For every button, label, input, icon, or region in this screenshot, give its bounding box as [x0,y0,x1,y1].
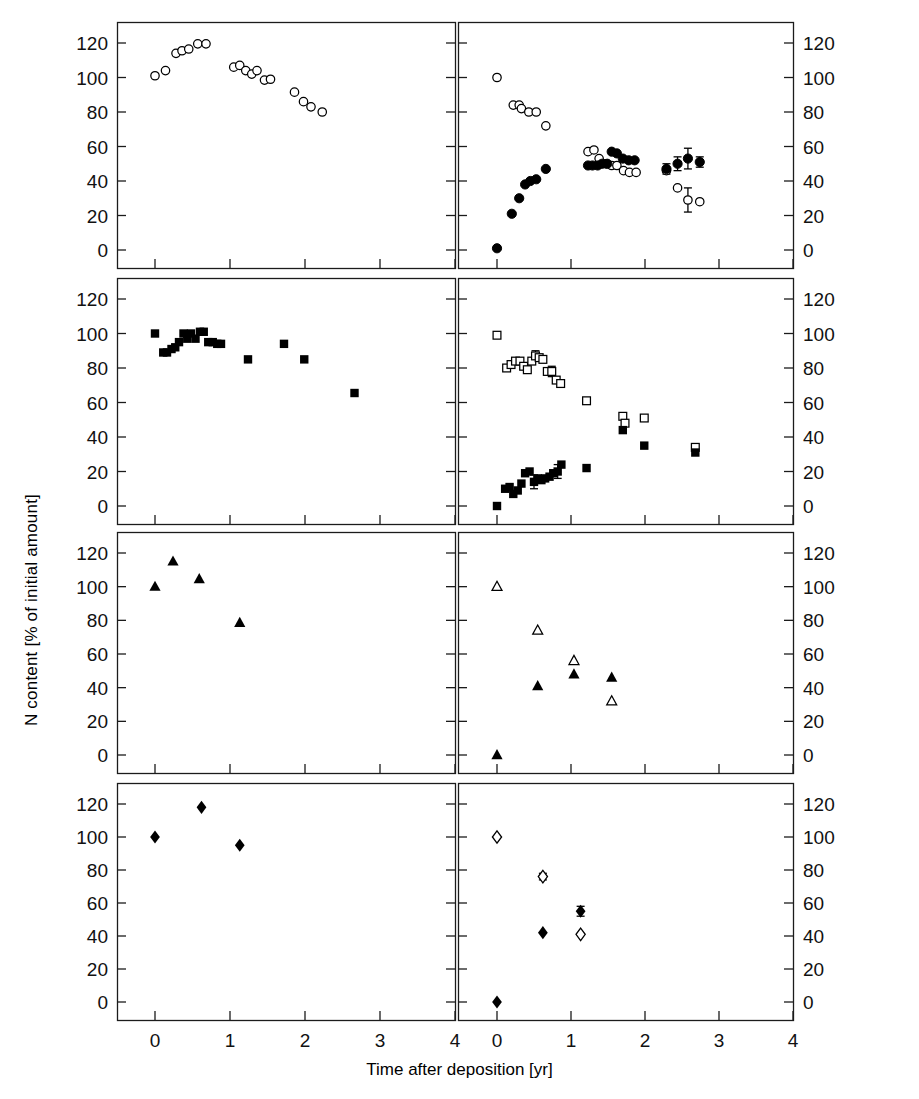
ytick-label-left-20-r2: 20 [87,711,108,732]
data-point-p0-s0-14 [290,88,298,96]
ytick-label-right-100-r2: 100 [803,577,835,598]
xtick-label-1-c1: 1 [566,1030,577,1051]
data-point-p1-s1-0 [492,244,501,253]
ytick-label-right-100-r0: 100 [803,68,835,89]
ytick-label-right-80-r3: 80 [803,860,824,881]
ytick-label-left-80-r1: 80 [87,358,108,379]
data-point-p2-s0-11 [200,328,208,336]
ytick-label-right-120-r2: 120 [803,543,835,564]
ytick-label-left-20-r3: 20 [87,959,108,980]
data-point-p0-s0-13 [266,75,274,83]
panel-frame-r2-c0 [118,533,456,774]
ytick-label-right-120-r3: 120 [803,794,835,815]
panel-frame-r2-c1 [459,533,794,774]
ytick-label-right-40-r0: 40 [803,171,824,192]
xtick-label-4-c1: 4 [788,1030,799,1051]
ytick-label-right-40-r3: 40 [803,926,824,947]
ytick-label-right-20-r3: 20 [803,959,824,980]
xtick-label-3-c1: 3 [714,1030,725,1051]
ytick-label-left-0-r0: 0 [97,240,108,261]
data-point-p1-s1-20 [695,157,704,166]
data-point-p1-s1-6 [541,164,550,173]
data-point-p0-s0-4 [185,45,193,53]
data-point-p2-s0-17 [280,340,288,348]
data-point-p3-s1-16 [582,464,590,472]
ytick-label-left-100-r2: 100 [76,577,108,598]
data-point-p1-s1-18 [673,159,682,168]
panel-frame-r3-c1 [459,784,794,1021]
data-point-p0-s0-15 [299,97,307,105]
xtick-label-0-c0: 0 [150,1030,161,1051]
ytick-label-right-60-r2: 60 [803,644,824,665]
data-point-p1-s1-17 [662,164,671,173]
ytick-label-right-120-r1: 120 [803,289,835,310]
data-point-p3-s0-15 [583,397,591,405]
ytick-label-right-0-r0: 0 [803,240,814,261]
data-point-p3-s0-10 [539,355,547,363]
ytick-label-left-100-r3: 100 [76,827,108,848]
data-point-p3-s0-14 [557,380,565,388]
data-point-p3-s0-0 [493,331,501,339]
xtick-label-4-c0: 4 [450,1030,461,1051]
data-point-p0-s0-17 [318,108,326,116]
data-point-p1-s0-6 [542,122,550,130]
panel-frame-r0-c0 [118,23,456,269]
ytick-label-left-40-r3: 40 [87,926,108,947]
data-point-p1-s0-17 [673,184,681,192]
data-point-p0-s0-1 [161,66,169,74]
data-point-p3-s1-19 [691,448,699,456]
ytick-label-right-60-r0: 60 [803,137,824,158]
ytick-label-right-60-r1: 60 [803,393,824,414]
ytick-label-left-80-r3: 80 [87,860,108,881]
ytick-label-left-0-r3: 0 [97,992,108,1013]
data-point-p3-s0-6 [523,366,531,374]
ytick-label-left-120-r3: 120 [76,794,108,815]
xtick-label-2-c0: 2 [300,1030,311,1051]
ytick-label-left-0-r2: 0 [97,745,108,766]
data-point-p3-s0-18 [640,414,648,422]
ytick-label-right-20-r2: 20 [803,711,824,732]
data-point-p1-s0-8 [590,146,598,154]
ytick-label-left-40-r0: 40 [87,171,108,192]
data-point-p1-s1-19 [683,154,692,163]
data-point-p2-s0-5 [175,338,183,346]
data-point-p1-s0-5 [532,108,540,116]
ytick-label-left-60-r2: 60 [87,644,108,665]
data-point-p1-s0-18 [684,196,692,204]
data-point-p3-s1-7 [525,467,533,475]
ytick-label-left-40-r1: 40 [87,427,108,448]
xtick-label-3-c0: 3 [375,1030,386,1051]
ytick-label-left-60-r1: 60 [87,393,108,414]
ytick-label-right-0-r3: 0 [803,992,814,1013]
panel-frame-r3-c0 [118,784,456,1021]
plot-layer: 0020204040606080801001001201200020204040… [0,0,919,1099]
ytick-label-right-60-r3: 60 [803,893,824,914]
data-point-p1-s1-11 [603,159,612,168]
ytick-label-right-100-r3: 100 [803,827,835,848]
data-point-p1-s0-15 [632,168,640,176]
ytick-label-right-120-r0: 120 [803,33,835,54]
xtick-label-2-c1: 2 [640,1030,651,1051]
data-point-p3-s1-17 [619,426,627,434]
data-point-p0-s0-5 [194,40,202,48]
data-point-p1-s0-0 [493,73,501,81]
data-point-p1-s1-2 [515,194,524,203]
ytick-label-right-0-r2: 0 [803,745,814,766]
data-point-p1-s1-16 [630,156,639,165]
ytick-label-right-40-r2: 40 [803,678,824,699]
data-point-p0-s0-6 [202,40,210,48]
ytick-label-left-60-r0: 60 [87,137,108,158]
ytick-label-left-80-r0: 80 [87,102,108,123]
xtick-label-1-c0: 1 [225,1030,236,1051]
data-point-p2-s0-0 [151,329,159,337]
ytick-label-right-80-r0: 80 [803,102,824,123]
panel-frame-r1-c0 [118,279,456,525]
ytick-label-left-80-r2: 80 [87,610,108,631]
data-point-p1-s0-19 [696,198,704,206]
ytick-label-left-120-r1: 120 [76,289,108,310]
ytick-label-left-100-r0: 100 [76,68,108,89]
data-point-p2-s0-18 [300,355,308,363]
data-point-p0-s0-16 [307,103,315,111]
ytick-label-right-80-r2: 80 [803,610,824,631]
data-point-p3-s1-15 [557,460,565,468]
